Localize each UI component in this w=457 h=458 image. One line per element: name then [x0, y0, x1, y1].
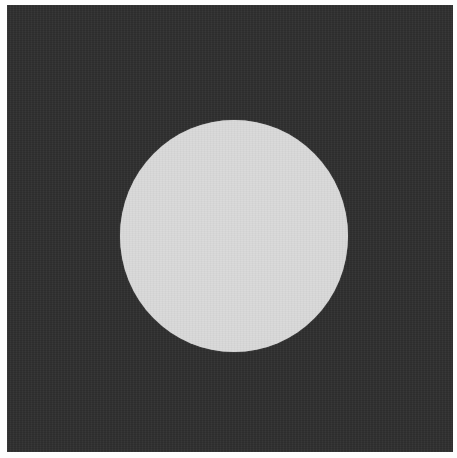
- dark-square: [7, 5, 453, 452]
- circle-texture: [120, 120, 348, 352]
- light-circle: [120, 120, 348, 352]
